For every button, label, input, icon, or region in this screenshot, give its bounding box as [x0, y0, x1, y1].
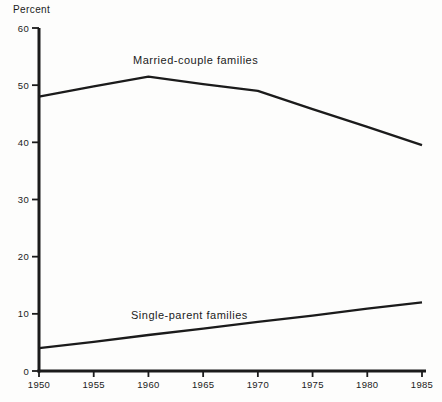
x-tick-label: 1975	[301, 379, 323, 390]
y-tick-label: 0	[23, 366, 29, 377]
y-tick-label: 60	[18, 23, 29, 34]
x-tick-label: 1985	[411, 379, 433, 390]
x-tick-label: 1950	[28, 379, 50, 390]
y-tick-label: 40	[18, 137, 29, 148]
y-axis-title: Percent	[13, 4, 50, 15]
series-label-married-couple: Married-couple families	[133, 54, 258, 66]
x-tick-label: 1955	[83, 379, 105, 390]
line-chart: 0102030405060195019551960196519701975198…	[0, 0, 442, 402]
x-tick-label: 1965	[192, 379, 214, 390]
y-tick-label: 10	[18, 308, 29, 319]
x-tick-label: 1980	[356, 379, 378, 390]
y-tick-label: 20	[18, 251, 29, 262]
married-couple-line	[39, 77, 422, 146]
y-tick-label: 30	[18, 194, 29, 205]
series-label-single-parent: Single-parent families	[131, 309, 248, 321]
x-tick-label: 1970	[247, 379, 269, 390]
y-tick-label: 50	[18, 80, 29, 91]
x-tick-label: 1960	[137, 379, 159, 390]
